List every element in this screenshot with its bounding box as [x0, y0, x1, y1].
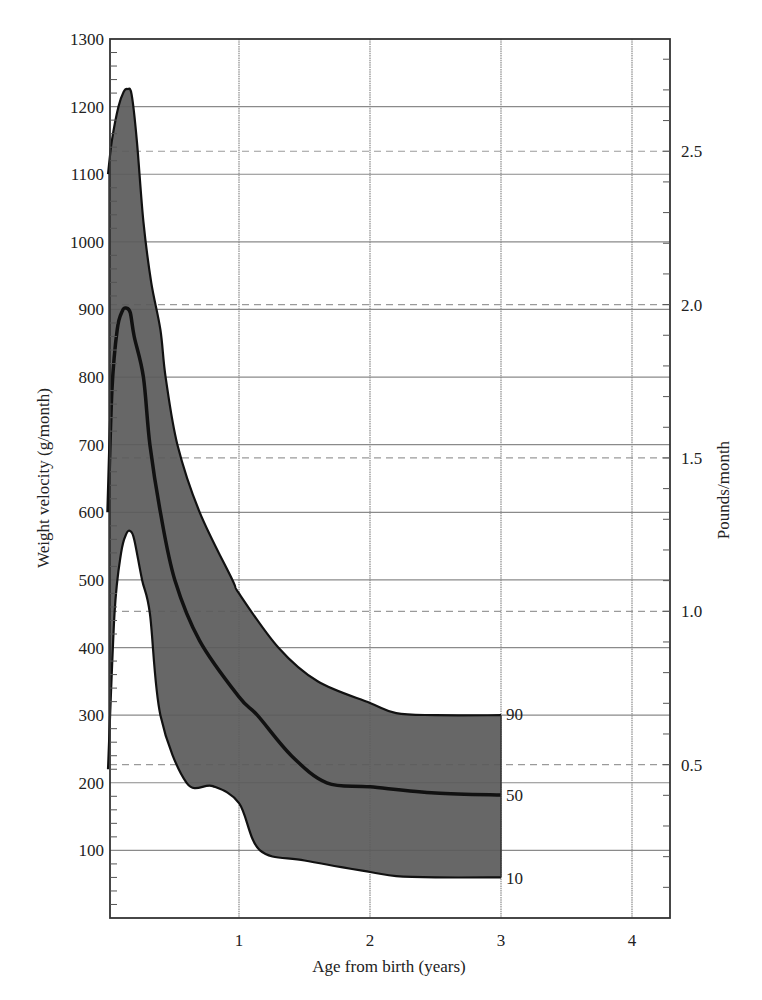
y2-tick-label: 0.5 [681, 756, 702, 775]
percentile-90-label: 90 [506, 705, 523, 724]
percentile-50-label: 50 [506, 786, 523, 805]
y-tick-label: 1000 [70, 233, 104, 252]
y-axis-title: Weight velocity (g/month) [34, 388, 53, 568]
percentile-band [108, 89, 501, 878]
x-tick-label: 3 [497, 931, 506, 950]
y-tick-label: 1200 [70, 98, 104, 117]
x-tick-label: 1 [235, 931, 244, 950]
y-tick-label: 800 [79, 368, 105, 387]
y2-tick-label: 2.5 [681, 142, 702, 161]
y-tick-label: 600 [79, 503, 105, 522]
y-tick-label: 900 [79, 300, 105, 319]
y2-tick-label: 2.0 [681, 296, 702, 315]
y-tick-label: 400 [79, 639, 105, 658]
y-tick-label: 200 [79, 774, 105, 793]
y2-tick-label: 1.5 [681, 449, 702, 468]
y2-axis-title: Pounds/month [714, 440, 733, 539]
band-fill [108, 89, 501, 878]
weight-velocity-chart: 1002003004005006007008009001000110012001… [0, 0, 762, 1000]
x-tick-label: 2 [366, 931, 375, 950]
y-tick-label: 500 [79, 571, 105, 590]
y2-tick-label: 1.0 [681, 602, 702, 621]
percentile-10-label: 10 [506, 869, 523, 888]
y-tick-label: 700 [79, 436, 105, 455]
y-tick-label: 1100 [71, 165, 104, 184]
y-tick-label: 1300 [70, 30, 104, 49]
y-tick-label: 300 [79, 706, 105, 725]
x-tick-label: 4 [628, 931, 637, 950]
y-tick-label: 100 [79, 841, 105, 860]
x-axis-title: Age from birth (years) [312, 957, 465, 976]
